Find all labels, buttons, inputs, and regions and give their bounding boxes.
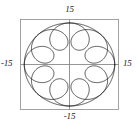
y-axis-max-label: 15: [0, 5, 139, 14]
axes-group: [21, 20, 119, 110]
x-axis-max-label: 15: [123, 59, 132, 68]
y-axis-min-label: -15: [0, 112, 139, 121]
x-axis-min-label: -15: [1, 59, 12, 68]
math-plot-figure: 15 -15 -15 15: [0, 0, 139, 130]
